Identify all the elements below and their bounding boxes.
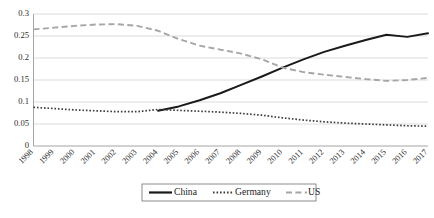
legend-label-china: China (174, 186, 198, 197)
x-tick-label: 2007 (204, 148, 222, 166)
legend-label-us: US (308, 186, 320, 197)
x-tick-label: 2012 (307, 148, 325, 166)
line-chart: 0.30.250.20.150.10.050 19981999200020012… (0, 0, 434, 218)
figure-container: 0.30.250.20.150.10.050 19981999200020012… (0, 0, 434, 218)
y-tick-label: 0.15 (14, 74, 29, 84)
y-tick-label: 0.1 (18, 96, 29, 106)
y-tick-label: 0.25 (14, 30, 29, 40)
y-tick-label: 0.3 (18, 8, 29, 18)
series-line-germany (34, 107, 429, 126)
x-tick-label: 2004 (141, 147, 160, 166)
y-tick-label: 0.2 (18, 52, 29, 62)
x-tick-label: 2008 (224, 148, 242, 166)
chart-legend: ChinaGermanyUS (142, 184, 320, 201)
series-line-china (158, 33, 428, 110)
x-tick-label: 2001 (79, 148, 97, 166)
x-tick-label: 2014 (349, 147, 368, 166)
x-tick-label: 2011 (287, 148, 305, 166)
x-tick-label: 2000 (58, 148, 76, 166)
x-tick-label: 2002 (100, 148, 118, 166)
x-tick-label: 2010 (266, 148, 284, 166)
y-tick-label: 0.05 (14, 118, 29, 128)
x-tick-label: 2017 (411, 148, 429, 166)
series-line-us (34, 24, 429, 81)
x-tick-label: 1998 (17, 148, 35, 166)
x-tick-label: 2006 (183, 148, 201, 166)
x-tick-label: 2003 (121, 148, 139, 166)
x-tick-label: 2009 (245, 148, 263, 166)
x-tick-label: 2015 (370, 148, 388, 166)
legend-label-germany: Germany (235, 186, 271, 197)
x-tick-label: 2005 (162, 148, 180, 166)
x-tick-label: 1999 (37, 148, 55, 166)
data-series-group (34, 24, 429, 126)
x-tick-label: 2013 (328, 148, 346, 166)
x-tick-label: 2016 (390, 148, 408, 166)
x-axis-tick-labels: 1998199920002001200220032004200520062007… (17, 147, 430, 166)
y-axis-tick-labels: 0.30.250.20.150.10.050 (14, 8, 29, 150)
